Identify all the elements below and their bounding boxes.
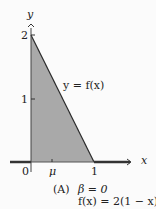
caption-line2: f(x) = 2(1 − x) bbox=[78, 196, 156, 207]
x-axis-label: x bbox=[141, 155, 147, 166]
x-tick-label-0: 0 bbox=[22, 166, 29, 177]
y-tick-label-1: 1 bbox=[21, 94, 28, 105]
y-tick-label-2: 2 bbox=[21, 30, 28, 41]
curve-label: y = f(x) bbox=[63, 80, 104, 91]
y-axis-label: y bbox=[27, 9, 33, 20]
y-axis-arrow-icon bbox=[28, 24, 34, 27]
caption-line1: β = 0 bbox=[78, 184, 108, 195]
x-tick-label-1: 1 bbox=[91, 166, 98, 177]
caption-tag: (A) bbox=[53, 184, 70, 195]
x-tick-label-mu: μ bbox=[49, 166, 56, 177]
